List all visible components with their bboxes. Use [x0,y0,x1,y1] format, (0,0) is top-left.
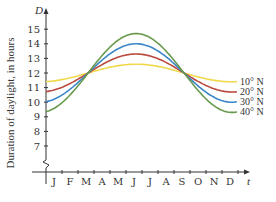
y-axis-arrow [44,8,49,14]
y-axis-symbol: D [34,4,43,16]
x-tick-label: F [67,176,74,187]
y-tick-label: 7 [34,141,40,152]
y-tick-label: 15 [27,24,40,35]
x-axis: JFMAMJJASOND [32,170,250,188]
series-line [46,64,237,82]
y-axis-title: Duration of daylight, in hours [4,37,16,168]
series-curves [46,34,237,113]
x-tick-label: M [113,176,123,187]
y-tick-label: 13 [27,53,40,64]
y-tick-label: 9 [34,111,40,122]
daylight-chart: 789101112131415 JFMAMJJASOND 10° N20° N3… [0,0,276,202]
x-tick-label: A [161,176,170,187]
x-tick-label: N [210,176,219,187]
y-tick-label: 8 [34,126,40,137]
x-tick-label: O [194,176,202,187]
x-tick-label: A [97,176,106,187]
y-axis: 789101112131415 [27,8,49,184]
x-tick-label: J [131,176,136,187]
y-tick-label: 11 [27,82,40,93]
x-axis-symbol: t [247,175,251,187]
x-tick-label: J [147,176,152,187]
y-tick-label: 12 [27,68,40,79]
y-tick-label: 14 [27,38,40,49]
series-line [46,34,237,113]
x-axis-arrow [244,170,250,175]
x-tick-label: J [51,176,56,187]
x-tick-label: D [226,176,234,187]
legend: 10° N20° N30° N40° N [240,76,264,117]
series-line [46,44,237,102]
legend-label: 40° N [240,106,264,117]
y-tick-label: 10 [27,97,40,108]
x-tick-label: M [81,176,91,187]
x-tick-label: S [179,176,186,187]
